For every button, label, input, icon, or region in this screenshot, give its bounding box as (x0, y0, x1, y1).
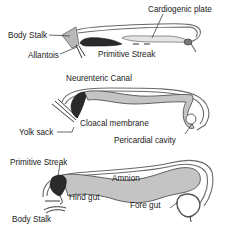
stage-1-cardiogenic-plate-shape (122, 36, 188, 42)
label-primitive-streak-1: Primitive Streak (98, 50, 156, 59)
stage-3-diagram: Primitive Streak Amnion Hind gut Fore gu… (10, 158, 213, 224)
stage-2-diagram: Neurenteric Canal Yolk sack Cloacal memb… (19, 74, 209, 145)
label-fore-gut: Fore gut (130, 201, 161, 210)
stage-1-allantois-shape (76, 45, 85, 58)
label-cloacal-membrane: Cloacal membrane (80, 119, 149, 128)
stage-1-diagram: Cardiogenic plate Body Stalk Allantois P… (8, 5, 212, 60)
label-yolk-sack: Yolk sack (19, 128, 54, 137)
stage-3-pericardial-loop (177, 194, 200, 217)
label-pericardial-cavity: Pericardial cavity (114, 136, 177, 145)
stage-2-cloaca-shape (71, 92, 86, 118)
label-body-stalk-3: Body Stalk (12, 215, 52, 224)
stage-3-body-stalk-shape (44, 207, 66, 213)
stage-3-primitive-streak-shape (50, 175, 66, 196)
stage-1-primitive-streak-shape (80, 38, 122, 46)
embryo-folding-diagram: Cardiogenic plate Body Stalk Allantois P… (0, 0, 227, 228)
label-allantois: Allantois (28, 51, 59, 60)
stage-1-heart-anlage (184, 39, 192, 45)
label-body-stalk-1: Body Stalk (8, 31, 48, 40)
label-neurenteric-canal: Neurenteric Canal (66, 74, 132, 83)
stage-1-amnion-inner (78, 27, 197, 37)
stage-2-pericardial-cavity-shape (186, 114, 196, 124)
label-cardiogenic-plate: Cardiogenic plate (148, 5, 212, 14)
label-amnion: Amnion (112, 174, 140, 183)
label-hind-gut: Hind gut (69, 193, 100, 202)
label-primitive-streak-3: Primitive Streak (10, 158, 68, 167)
